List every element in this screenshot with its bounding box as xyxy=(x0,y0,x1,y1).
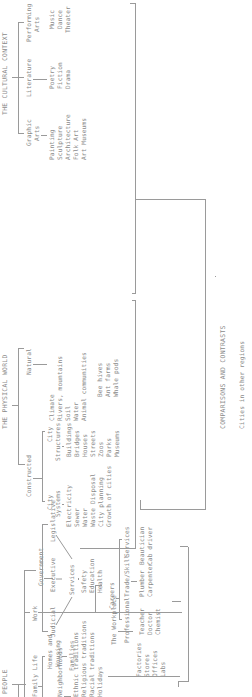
concept-map-diagram: THE CULTURAL CONTEXT Performing Arts Mus… xyxy=(0,0,252,697)
connector xyxy=(42,656,45,657)
gov-service-item: Health xyxy=(96,570,103,593)
connector xyxy=(132,300,136,301)
connector xyxy=(132,293,136,294)
trade-skill-item: Plumber xyxy=(138,570,145,597)
careers-services-item: Beautician xyxy=(138,527,145,565)
workplace-item: Factories xyxy=(135,643,142,677)
connector xyxy=(131,581,137,582)
connector xyxy=(119,619,122,620)
neighborhood-item: Racial traditions xyxy=(88,632,95,697)
comparisons-subtitle: Cities in other regions xyxy=(238,341,245,429)
connector xyxy=(178,681,188,682)
professional-item: Doctor xyxy=(146,612,153,635)
connector xyxy=(140,500,141,510)
physical-bottom-line xyxy=(135,300,136,549)
workplace-item: Stores xyxy=(143,654,150,677)
neighborhoods-label: Neighborhoods xyxy=(56,647,63,697)
workplace-item: Labs xyxy=(159,662,166,677)
neighborhood-item: Holidays xyxy=(96,666,103,697)
trade-skill-item: Carpenter xyxy=(146,563,153,597)
connector xyxy=(95,585,96,613)
comparisons-top-line xyxy=(205,199,206,510)
professional-item: Chemist xyxy=(154,608,161,635)
services-label: Services xyxy=(68,564,75,595)
connector xyxy=(108,676,180,677)
neighborhood-item: Religious traditions xyxy=(80,620,87,697)
work-label: Work xyxy=(31,606,38,621)
people-bottom-line xyxy=(188,547,189,682)
workplace-item: Offices xyxy=(151,650,158,677)
connector xyxy=(135,199,205,200)
connector xyxy=(119,539,120,620)
connector xyxy=(180,546,188,547)
connector xyxy=(42,656,43,697)
connector xyxy=(130,3,136,4)
neighborhood-item: Ethnic traditions xyxy=(72,632,79,697)
connector xyxy=(95,585,102,586)
connector xyxy=(178,681,179,687)
connector xyxy=(24,612,30,613)
professional-label: Professional xyxy=(123,597,130,643)
workplace-label: The Workplace xyxy=(110,595,117,645)
connector xyxy=(172,601,181,602)
comparisons-title: COMPARISONS AND CONTRASTS xyxy=(220,325,227,429)
connector xyxy=(140,509,205,510)
connector xyxy=(80,548,136,549)
homes-label: Homes and xyxy=(46,635,53,669)
cultural-bottom-line xyxy=(135,3,136,294)
careers-services-item: Cab driver xyxy=(146,527,153,565)
trade-skill-label: Trade/Skill xyxy=(123,555,130,597)
gov-service-item: Safety xyxy=(80,570,87,593)
connector xyxy=(119,539,122,540)
careers-services-label: Services xyxy=(123,526,130,557)
connector xyxy=(118,631,133,632)
connector xyxy=(24,684,25,697)
family-life-label: Family Life xyxy=(31,655,38,697)
professional-item: Teacher xyxy=(138,608,145,635)
connector xyxy=(78,578,79,580)
connector xyxy=(215,276,216,277)
